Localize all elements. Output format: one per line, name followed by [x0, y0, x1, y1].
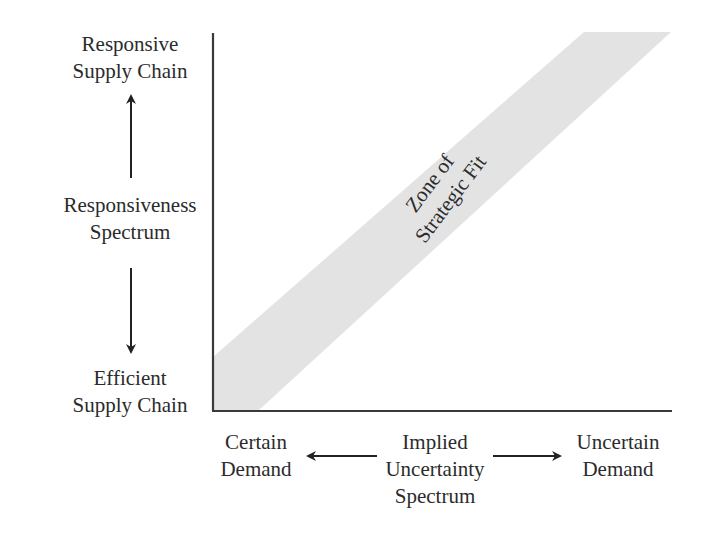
label-line: Spectrum	[372, 483, 498, 510]
label-line: Demand	[196, 456, 316, 483]
label-line: Uncertainty	[372, 456, 498, 483]
certain-demand-label: Certain Demand	[196, 429, 316, 483]
label-line: Uncertain	[555, 429, 681, 456]
label-line: Supply Chain	[20, 392, 240, 419]
uncertain-demand-label: Uncertain Demand	[555, 429, 681, 483]
label-line: Supply Chain	[20, 58, 240, 85]
responsiveness-spectrum-label: Responsiveness Spectrum	[20, 192, 240, 246]
label-line: Responsiveness	[20, 192, 240, 219]
strategic-fit-diagram: Responsive Supply Chain Responsiveness S…	[0, 0, 704, 536]
label-line: Responsive	[20, 31, 240, 58]
label-line: Spectrum	[20, 219, 240, 246]
label-line: Implied	[372, 429, 498, 456]
label-line: Certain	[196, 429, 316, 456]
label-line: Demand	[555, 456, 681, 483]
implied-uncertainty-spectrum-label: Implied Uncertainty Spectrum	[372, 429, 498, 510]
label-line: Efficient	[20, 365, 240, 392]
responsive-supply-chain-label: Responsive Supply Chain	[20, 31, 240, 85]
efficient-supply-chain-label: Efficient Supply Chain	[20, 365, 240, 419]
